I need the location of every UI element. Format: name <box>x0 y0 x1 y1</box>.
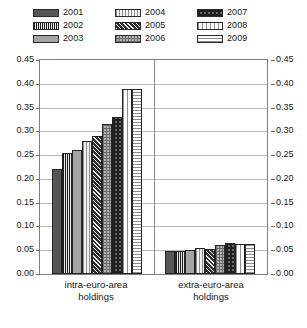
bar-group-intra-euro-area <box>40 60 154 274</box>
legend-label: 2006 <box>145 34 165 43</box>
legend-swatch-vertical-stripe-white <box>197 22 223 30</box>
bar-2007 <box>112 117 122 274</box>
legend-swatch-fine-checker-light <box>115 35 141 43</box>
y-tick-label: 0.25 <box>16 150 34 159</box>
legend-swatch-solid-dark-gray <box>33 9 59 17</box>
y-tick-label: 0.20 <box>16 174 34 183</box>
y-tick-mark <box>271 84 275 85</box>
bar-2002 <box>62 153 72 274</box>
bar-2006 <box>102 124 112 274</box>
y-tick-mark <box>271 60 275 61</box>
plot-area <box>39 59 268 275</box>
y-tick-label: 0.05 <box>276 245 294 254</box>
y-tick-mark <box>271 226 275 227</box>
legend-swatch-checker-dark <box>197 9 223 17</box>
chart-legend: 200120042007200220052008200320062009 <box>33 6 279 45</box>
y-tick-mark <box>271 155 275 156</box>
bar-2004 <box>82 141 92 274</box>
bar-group-extra-euro-area <box>154 60 268 274</box>
legend-item-2002[interactable]: 2002 <box>33 19 115 32</box>
legend-label: 2009 <box>227 34 247 43</box>
legend-swatch-horizontal-stripe-white <box>197 35 223 43</box>
y-tick-label: 0.35 <box>16 103 34 112</box>
category-label-line2: holdings <box>39 291 153 303</box>
y-tick-label: 0.00 <box>16 269 34 278</box>
y-axis-right: 0.450.400.350.300.250.200.150.100.050.00 <box>271 59 305 275</box>
y-tick-mark <box>271 203 275 204</box>
y-tick-mark <box>271 274 275 275</box>
y-tick-label: 0.20 <box>276 174 294 183</box>
bar-2003 <box>72 150 82 274</box>
bar-2003 <box>185 250 195 274</box>
y-tick-label: 0.10 <box>276 221 294 230</box>
bar-2005 <box>92 136 102 274</box>
y-tick-mark <box>271 108 275 109</box>
bar-2001 <box>52 169 62 274</box>
y-tick-label: 0.15 <box>16 198 34 207</box>
legend-item-2007[interactable]: 2007 <box>197 6 279 19</box>
bar-chart-figure: 200120042007200220052008200320062009 0.4… <box>0 0 307 328</box>
bar-2009 <box>132 89 142 274</box>
y-axis-left: 0.450.400.350.300.250.200.150.100.050.00 <box>2 59 36 275</box>
legend-item-2006[interactable]: 2006 <box>115 32 197 45</box>
bar-2007 <box>225 243 235 274</box>
y-tick-label: 0.00 <box>276 269 294 278</box>
legend-label: 2001 <box>63 8 83 17</box>
legend-swatch-vertical-stripe-dark <box>33 22 59 30</box>
y-tick-label: 0.05 <box>16 245 34 254</box>
legend-item-2003[interactable]: 2003 <box>33 32 115 45</box>
legend-label: 2003 <box>63 34 83 43</box>
bar-2006 <box>215 245 225 274</box>
legend-item-2004[interactable]: 2004 <box>115 6 197 19</box>
legend-label: 2007 <box>227 8 247 17</box>
y-tick-label: 0.10 <box>16 221 34 230</box>
legend-label: 2005 <box>145 21 165 30</box>
category-label-extra-euro-area: extra-euro-area holdings <box>154 279 268 302</box>
legend-swatch-solid-light-gray <box>33 35 59 43</box>
bar-2005 <box>205 249 215 274</box>
bar-2008 <box>122 89 132 274</box>
legend-item-2009[interactable]: 2009 <box>197 32 279 45</box>
y-tick-label: 0.30 <box>16 126 34 135</box>
legend-label: 2002 <box>63 21 83 30</box>
category-label-line2: holdings <box>154 291 268 303</box>
y-tick-label: 0.45 <box>276 55 294 64</box>
y-tick-label: 0.30 <box>276 126 294 135</box>
legend-swatch-diagonal-hatch-dark <box>115 22 141 30</box>
legend-label: 2008 <box>227 21 247 30</box>
bar-2004 <box>195 248 205 274</box>
y-tick-mark <box>271 179 275 180</box>
bar-2001 <box>165 251 175 274</box>
y-tick-mark <box>271 131 275 132</box>
y-tick-label: 0.40 <box>16 79 34 88</box>
category-label-line1: extra-euro-area <box>154 279 268 291</box>
bar-2009 <box>245 244 255 274</box>
y-tick-label: 0.40 <box>276 79 294 88</box>
legend-item-2008[interactable]: 2008 <box>197 19 279 32</box>
y-tick-mark <box>271 250 275 251</box>
y-tick-label: 0.45 <box>16 55 34 64</box>
y-tick-label: 0.35 <box>276 103 294 112</box>
legend-swatch-vertical-stripe-light <box>115 9 141 17</box>
y-tick-label: 0.25 <box>276 150 294 159</box>
legend-item-2005[interactable]: 2005 <box>115 19 197 32</box>
category-label-line1: intra-euro-area <box>39 279 153 291</box>
legend-item-2001[interactable]: 2001 <box>33 6 115 19</box>
legend-label: 2004 <box>145 8 165 17</box>
bar-2008 <box>235 244 245 274</box>
y-tick-label: 0.15 <box>276 198 294 207</box>
bar-2002 <box>175 251 185 274</box>
category-label-intra-euro-area: intra-euro-area holdings <box>39 279 153 302</box>
